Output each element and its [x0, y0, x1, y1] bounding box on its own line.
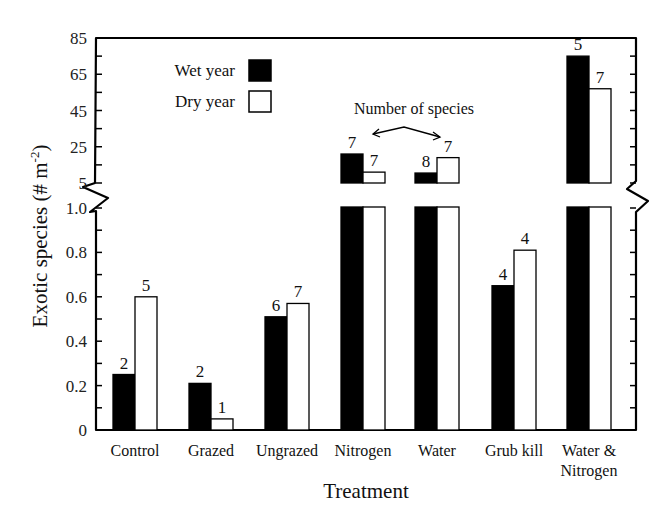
species-count: 6 — [272, 296, 281, 315]
bar — [514, 250, 536, 430]
legend-label-dry: Dry year — [175, 92, 235, 111]
y-tick-label: 0.4 — [66, 332, 88, 351]
y-tick-label: 5 — [79, 174, 88, 193]
y-tick-label: 0.8 — [66, 243, 87, 262]
bar-upper-segment — [341, 154, 363, 183]
y-tick-label: 45 — [70, 102, 87, 121]
x-category-label: Ungrazed — [256, 442, 318, 460]
species-count: 7 — [348, 133, 357, 152]
bar-upper-segment — [567, 56, 589, 183]
bar-lower-segment — [437, 207, 459, 430]
annotation-number-of-species: Number of species — [354, 100, 474, 140]
bar-lower-segment — [567, 207, 589, 430]
bar — [135, 297, 157, 430]
annotation-text: Number of species — [354, 100, 474, 118]
x-category-label: Nitrogen — [335, 442, 392, 460]
y-tick-label: 0 — [79, 421, 88, 440]
legend-label-wet: Wet year — [175, 61, 236, 80]
x-category-label: Nitrogen — [561, 462, 618, 480]
x-category-label: Grub kill — [485, 442, 544, 459]
x-axis-category-labels: ControlGrazedUngrazedNitrogenWaterGrub k… — [111, 442, 618, 480]
bar-upper-segment — [363, 172, 385, 183]
x-axis-title: Treatment — [323, 479, 409, 503]
species-count: 7 — [370, 151, 379, 170]
species-count: 4 — [499, 265, 508, 284]
bar-chart: 25216777874457 52545658500.20.40.60.81.0… — [0, 0, 668, 530]
legend-swatch-wet — [249, 60, 271, 81]
species-count: 4 — [521, 229, 530, 248]
bar — [492, 286, 514, 430]
species-count: 7 — [444, 137, 453, 156]
bar — [189, 383, 211, 430]
legend-swatch-dry — [249, 91, 271, 112]
bar — [265, 317, 287, 430]
y-tick-label: 65 — [70, 65, 87, 84]
y-tick-label: 85 — [70, 29, 87, 48]
species-count: 2 — [196, 362, 205, 381]
bar-upper-segment — [437, 158, 459, 183]
bar — [113, 375, 135, 431]
species-count: 8 — [422, 152, 431, 171]
y-tick-label: 25 — [70, 138, 87, 157]
bar-upper-segment — [415, 173, 437, 183]
bar — [287, 303, 309, 430]
species-count: 5 — [574, 35, 583, 54]
y-tick-label: 1.0 — [66, 199, 87, 218]
species-count: 7 — [596, 68, 605, 87]
bar-lower-segment — [341, 207, 363, 430]
double-arrow-icon — [373, 127, 440, 137]
bar-lower-segment — [589, 207, 611, 430]
x-category-label: Water & — [562, 442, 617, 459]
species-count: 7 — [294, 282, 303, 301]
legend: Wet year Dry year — [175, 60, 271, 112]
x-category-label: Control — [111, 442, 160, 459]
y-tick-label: 0.6 — [66, 288, 87, 307]
bar-lower-segment — [415, 207, 437, 430]
x-category-label: Water — [418, 442, 456, 459]
bar — [211, 419, 233, 430]
x-category-label: Grazed — [188, 442, 234, 459]
species-count: 2 — [120, 354, 129, 373]
y-tick-label: 0.2 — [66, 377, 87, 396]
y-axis-title: Exotic species (# m-2) — [27, 145, 52, 328]
bar-lower-segment — [363, 207, 385, 430]
species-count: 5 — [142, 276, 151, 295]
species-count: 1 — [218, 398, 227, 417]
bar-upper-segment — [589, 89, 611, 183]
